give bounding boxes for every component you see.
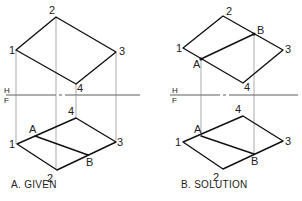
plane-top-view-solution: [183, 16, 283, 83]
point-label-3-front: 3: [117, 136, 123, 148]
point-label-b-front-sol: B: [251, 155, 258, 167]
point-label-4-top-sol: 4: [244, 81, 250, 93]
fold-label-f-solution: F: [172, 96, 177, 105]
point-label-a-front: A: [29, 123, 37, 135]
point-b-marker-top: [252, 32, 255, 35]
point-label-b-top-sol: B: [257, 24, 264, 36]
fold-label-f-given: F: [4, 96, 9, 105]
caption-given: A. GIVEN: [11, 179, 57, 190]
orthographic-projection-diagram: H F H F 1 2 3 4 1 2 3 4 A B A. GIVEN: [0, 0, 302, 201]
point-label-3-front-sol: 3: [285, 135, 291, 147]
point-label-b-front: B: [86, 156, 93, 168]
caption-solution: B. SOLUTION: [181, 179, 248, 190]
point-label-a-front-sol: A: [194, 123, 202, 135]
point-label-1-top-sol: 1: [176, 42, 182, 54]
point-label-1-front-sol: 1: [175, 136, 181, 148]
point-label-1-top: 1: [9, 44, 15, 56]
fold-label-h-given: H: [4, 86, 10, 95]
plane-top-view-given: [16, 17, 116, 84]
point-label-4-front-sol: 4: [235, 103, 241, 115]
panel-solution: 1 2 3 4 A B 1 2 3 4 A B B. SOLUTION: [175, 5, 291, 190]
point-label-1-front: 1: [9, 138, 15, 150]
point-label-4-front: 4: [68, 105, 74, 117]
line-ab-front-solution: [201, 136, 254, 154]
panel-given: 1 2 3 4 1 2 3 4 A B A. GIVEN: [9, 4, 125, 190]
line-ab-front-given: [35, 136, 88, 155]
point-label-2-top: 2: [49, 4, 55, 16]
point-label-2-top-sol: 2: [226, 5, 232, 17]
line-ab-top-solution: [201, 34, 254, 59]
point-label-3-top-sol: 3: [285, 43, 291, 55]
fold-label-h-solution: H: [172, 86, 178, 95]
point-label-a-top-sol: A: [193, 58, 201, 70]
point-label-4-top: 4: [77, 82, 83, 94]
projection-lines-solution: [201, 34, 254, 154]
point-label-3-top: 3: [119, 45, 125, 57]
